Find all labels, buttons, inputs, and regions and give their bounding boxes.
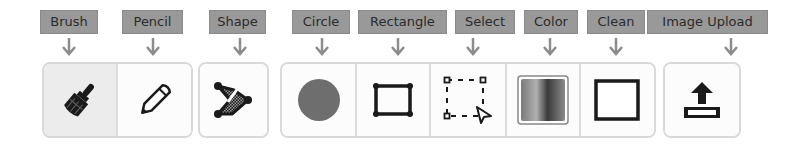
upload-group [663, 62, 741, 138]
upload-icon [681, 80, 723, 120]
down-arrow-icon [146, 38, 160, 56]
label-clean: Clean [587, 10, 645, 34]
color-swatch-icon [517, 75, 569, 125]
label-select: Select [455, 10, 515, 34]
down-arrow-icon [315, 38, 329, 56]
pencil-icon [135, 80, 175, 120]
down-arrow-icon [233, 38, 247, 56]
shape-group [198, 62, 269, 138]
color-button[interactable] [507, 64, 581, 136]
select-button[interactable] [431, 64, 506, 136]
down-arrow-icon [62, 38, 76, 56]
circle-button[interactable] [282, 64, 357, 136]
rectangle-icon [372, 82, 414, 118]
label-rectangle: Rectangle [358, 10, 447, 34]
shape-tools-group [280, 62, 656, 138]
down-arrow-icon [609, 38, 623, 56]
shape-button[interactable] [200, 64, 267, 136]
down-arrow-icon [543, 38, 557, 56]
label-shape: Shape [209, 10, 266, 34]
empty-square-icon [594, 79, 640, 121]
filled-circle-icon [297, 78, 341, 122]
down-arrow-icon [391, 38, 405, 56]
label-brush: Brush [40, 10, 98, 34]
label-pencil: Pencil [122, 10, 183, 34]
down-arrow-icon [724, 38, 738, 56]
rectangle-button[interactable] [357, 64, 431, 136]
image-upload-button[interactable] [665, 64, 739, 136]
drawing-tools-group [42, 62, 193, 138]
label-color: Color [524, 10, 578, 34]
down-arrow-icon [466, 38, 480, 56]
label-circle: Circle [292, 10, 350, 34]
paintbrush-icon [60, 80, 100, 120]
clean-button[interactable] [581, 64, 654, 136]
label-image-upload: Image Upload [647, 10, 768, 34]
marquee-select-icon [443, 76, 493, 124]
polygon-shape-icon [212, 80, 256, 120]
pencil-button[interactable] [118, 64, 191, 136]
brush-button[interactable] [44, 64, 118, 136]
